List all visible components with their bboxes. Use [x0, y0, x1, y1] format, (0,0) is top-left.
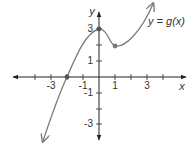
function-graph: -3 -1 1 3 3 1 -1 -3 x y y = g(x): [0, 0, 194, 156]
y-tick-label: -1: [84, 87, 93, 98]
curve-label: y = g(x): [147, 15, 185, 27]
local-max-point: [97, 27, 102, 32]
x-tick-label: 3: [144, 80, 150, 91]
x-intercept-point: [65, 75, 70, 80]
x-tick-label: 1: [112, 80, 118, 91]
x-axis-label: x: [178, 80, 185, 92]
y-tick-label: -3: [84, 118, 93, 129]
y-tick-label: 1: [87, 55, 93, 66]
y-axis-label: y: [88, 5, 96, 17]
x-tick-label: -3: [47, 80, 56, 91]
local-min-point: [113, 44, 118, 49]
curve-g: [43, 4, 153, 141]
